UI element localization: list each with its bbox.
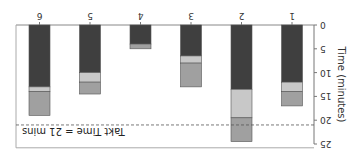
y-tick-label: 20 bbox=[320, 115, 332, 125]
bar-segment-mid bbox=[181, 63, 202, 87]
chart-stage: 0510152025Time (minutes)123456Takt Time … bbox=[0, 0, 359, 159]
y-tick-label: 10 bbox=[320, 68, 332, 78]
bar-segment-light bbox=[231, 89, 252, 118]
stacked-bar-chart: 0510152025Time (minutes)123456Takt Time … bbox=[0, 0, 359, 159]
x-tick-label: 3 bbox=[188, 11, 194, 21]
bar-segment-light bbox=[282, 82, 303, 92]
bar-segment-dark bbox=[80, 25, 101, 73]
y-tick-label: 0 bbox=[320, 20, 326, 30]
bar-segment-light bbox=[80, 73, 101, 83]
x-tick-label: 6 bbox=[36, 11, 42, 21]
bar-segment-mid bbox=[29, 92, 50, 116]
bar-segment-dark bbox=[181, 25, 202, 56]
y-tick-label: 25 bbox=[320, 139, 331, 149]
x-tick-label: 4 bbox=[137, 11, 143, 21]
bar-segment-light bbox=[181, 56, 202, 63]
bar-segment-dark bbox=[130, 25, 151, 44]
bar-segment-mid bbox=[80, 82, 101, 94]
bar-segment-mid bbox=[231, 118, 252, 142]
bar-segment-dark bbox=[29, 25, 50, 87]
bar-segment-dark bbox=[282, 25, 303, 82]
y-tick-label: 15 bbox=[320, 91, 331, 101]
bar-segment-dark bbox=[231, 25, 252, 89]
bar-segment-light bbox=[29, 87, 50, 92]
x-tick-label: 2 bbox=[239, 11, 245, 21]
bar-segment-mid bbox=[130, 44, 151, 49]
x-tick-label: 5 bbox=[87, 11, 93, 21]
takt-time-label: Takt Time = 21 mins bbox=[22, 126, 126, 137]
x-tick-label: 1 bbox=[289, 11, 295, 21]
y-tick-label: 5 bbox=[320, 44, 326, 54]
y-axis-title: Time (minutes) bbox=[336, 46, 347, 123]
bar-segment-mid bbox=[282, 92, 303, 106]
